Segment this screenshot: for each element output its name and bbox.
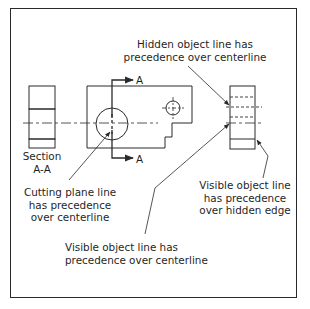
- callout-visible-over-center: Visible object line has precedence over …: [65, 241, 225, 266]
- leader-visible-over-hidden: [257, 140, 268, 178]
- callout-line: precedence over centerline: [115, 51, 275, 64]
- callout-cutting-plane: Cutting plane line has precedence over c…: [20, 186, 120, 224]
- section-label: Section A-A: [18, 150, 66, 175]
- callout-line: Cutting plane line: [20, 186, 120, 199]
- section-label-line: Section: [18, 150, 66, 163]
- callout-line: has precedence: [20, 199, 120, 212]
- cutting-plane-bottom: [112, 130, 133, 158]
- callout-visible-over-hidden: Visible object line has precedence over …: [190, 179, 300, 217]
- callout-line: Visible object line has: [65, 241, 225, 254]
- section-middle-void: [29, 109, 55, 139]
- cutting-letter-top: A: [136, 74, 143, 87]
- front-view-outline: [87, 86, 192, 148]
- callout-line: over centerline: [20, 211, 120, 224]
- side-view-outline: [230, 86, 255, 149]
- callout-line: over hidden edge: [190, 204, 300, 217]
- section-label-line: A-A: [18, 163, 66, 176]
- callout-line: Visible object line: [190, 179, 300, 192]
- callout-line: has precedence: [190, 192, 300, 205]
- section-top-hatch: [29, 86, 55, 109]
- callout-hidden-over-center: Hidden object line has precedence over c…: [115, 38, 275, 63]
- leader-cutting-plane: [69, 132, 110, 180]
- section-bottom-hatch: [29, 139, 55, 148]
- section-view: [29, 86, 55, 148]
- side-view: [226, 86, 262, 149]
- cutting-letter-bottom: A: [136, 153, 143, 166]
- callout-line: precedence over centerline: [65, 254, 225, 267]
- front-view: [87, 80, 192, 158]
- callout-line: Hidden object line has: [115, 38, 275, 51]
- leader-hidden-over-center: [188, 66, 229, 105]
